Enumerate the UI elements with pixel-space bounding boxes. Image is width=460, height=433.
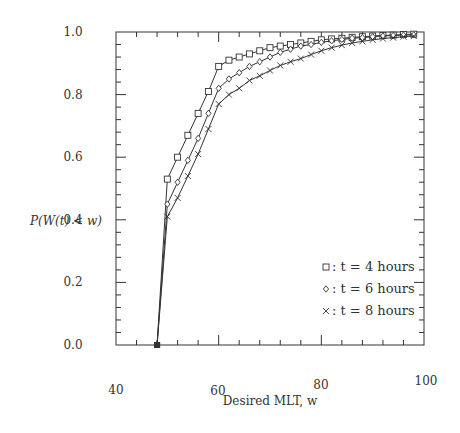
series-square [154,31,417,348]
y-tick-label: 1.0 [63,25,82,39]
diamond-marker-icon [278,49,283,55]
square-marker-icon [195,110,201,116]
series-line [157,34,414,345]
square-marker-icon [226,57,232,63]
diamond-marker-icon [267,54,272,60]
cross-marker-icon [246,78,252,84]
legend: : t = 4 hours: t = 6 hours: t = 8 hours [323,259,415,318]
y-tick-label: 0.8 [63,88,82,102]
square-marker-icon [257,48,263,54]
cross-marker-icon [298,56,304,62]
square-marker-icon [277,43,283,49]
square-marker-icon [205,88,211,94]
cross-marker-icon [195,151,201,157]
plot-frame [116,32,424,345]
legend-item: : t = 4 hours [323,259,415,274]
square-marker-icon [216,63,222,69]
diamond-marker-icon [175,179,180,185]
diamond-marker-icon [237,69,242,75]
cross-marker-icon [267,67,273,73]
y-tick-label: 0.6 [63,150,82,164]
x-tick-label: 80 [313,378,328,392]
square-marker-icon [164,176,170,182]
square-marker-icon [236,54,242,60]
series-cross [154,33,417,348]
y-tick-label: 0.0 [63,338,82,352]
series-line [157,36,414,345]
square-marker-icon [323,264,329,270]
diamond-marker-icon [323,286,328,292]
cross-marker-icon [257,73,263,79]
cross-marker-icon [277,62,283,68]
origin-marker-icon [154,342,160,348]
legend-label: : t = 4 hours [332,259,415,274]
legend-label: : t = 6 hours [332,281,415,296]
cross-marker-icon [175,195,181,201]
diamond-marker-icon [196,135,201,141]
cross-marker-icon [323,308,329,314]
legend-item: : t = 6 hours [323,281,414,296]
square-marker-icon [185,132,191,138]
data-series [154,31,417,348]
x-axis-title: Desired MLT, w [223,394,318,408]
legend-label: : t = 8 hours [332,303,415,318]
x-tick-label: 40 [108,383,123,397]
series-line [157,35,414,345]
cross-marker-icon [216,101,222,107]
legend-item: : t = 8 hours [323,303,415,318]
cross-marker-icon [226,92,232,98]
diamond-marker-icon [206,110,211,116]
diamond-marker-icon [257,59,262,65]
cdf-chart: 4060801000.00.20.40.60.81.0 : t = 4 hour… [0,0,460,433]
cross-marker-icon [308,52,314,58]
cross-marker-icon [185,173,191,179]
square-marker-icon [175,154,181,160]
y-axis-title: P(W(t) < w) [29,214,102,228]
cross-marker-icon [205,126,211,132]
series-diamond [154,32,416,348]
cross-marker-icon [288,59,294,65]
square-marker-icon [246,51,252,57]
y-tick-label: 0.2 [63,275,82,289]
diamond-marker-icon [247,63,252,69]
cross-marker-icon [318,48,324,54]
diamond-marker-icon [185,157,190,163]
x-tick-label: 100 [415,374,438,388]
square-marker-icon [267,45,273,51]
cross-marker-icon [236,85,242,91]
